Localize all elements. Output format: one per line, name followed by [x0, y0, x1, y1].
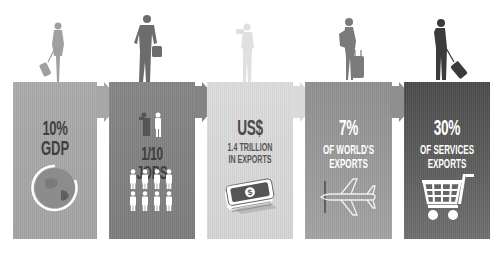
gdp-percentage: 10% [29, 117, 81, 138]
gdp-label: GDP [23, 137, 87, 158]
services-exports-caption: EXPORTS [414, 157, 480, 170]
world-exports-caption: EXPORTS [315, 157, 381, 170]
man-traveler-with-rolling-bag-icon [432, 18, 472, 82]
currency-label: US$ [223, 117, 276, 139]
world-exports-panel: 7% OF WORLD'S EXPORTS [305, 82, 392, 239]
worker-pair-icon [139, 112, 167, 138]
world-exports-label: OF WORLD'S [315, 143, 381, 156]
exports-caption: IN EXPORTS [217, 154, 283, 166]
gdp-panel: 10% GDP [13, 82, 97, 239]
people-icon [129, 169, 177, 211]
services-exports-panel: 30% OF SERVICES EXPORTS [404, 82, 490, 239]
exports-amount: 1.4 TRILLION [217, 142, 283, 154]
woman-traveler-with-rolling-bag-icon [334, 16, 370, 82]
woman-traveler-with-suitcase-icon [38, 20, 68, 82]
jobs-panel: 1/10 JOBS [109, 82, 195, 239]
globe-icon [31, 164, 79, 212]
man-traveler-with-bag-icon [132, 14, 166, 82]
tourist-with-camera-icon [232, 22, 260, 82]
airplane-icon [319, 177, 379, 217]
tourism-infographic: 10% GDP 1/10 JOBS [0, 0, 500, 254]
money-stack-icon: $ [221, 172, 281, 214]
exports-value-panel: US$ 1.4 TRILLION IN EXPORTS $ [207, 82, 293, 239]
world-exports-percentage: 7% [322, 117, 376, 139]
shopping-cart-icon [422, 174, 476, 222]
services-exports-label: OF SERVICES [414, 143, 480, 156]
services-exports-percentage: 30% [420, 117, 473, 139]
